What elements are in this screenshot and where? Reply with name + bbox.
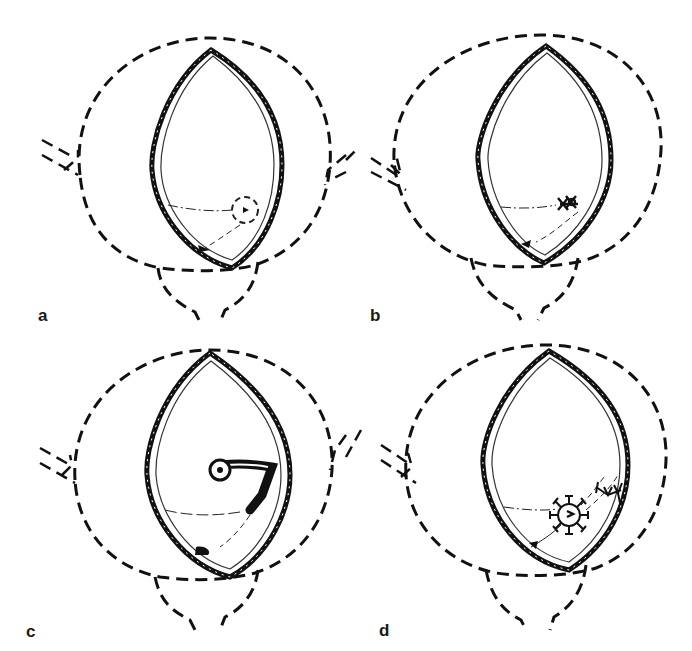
panel-label-c: c: [26, 623, 35, 640]
panel-a-drawing: [0, 0, 346, 325]
panel-label-a: a: [38, 307, 47, 324]
suture-stitches: [558, 196, 578, 210]
panel-c: c: [0, 325, 346, 650]
panel-d-drawing: [346, 325, 692, 650]
panel-d: d: [346, 325, 692, 650]
suture-rosette: [550, 496, 588, 534]
panel-label-b: b: [370, 307, 380, 324]
panel-label-d: d: [379, 622, 389, 639]
catheter-tube: [210, 460, 272, 510]
panel-a: a: [0, 0, 346, 325]
panel-c-drawing: [0, 325, 346, 650]
panel-b: b: [346, 0, 692, 325]
panel-b-drawing: [346, 0, 692, 325]
